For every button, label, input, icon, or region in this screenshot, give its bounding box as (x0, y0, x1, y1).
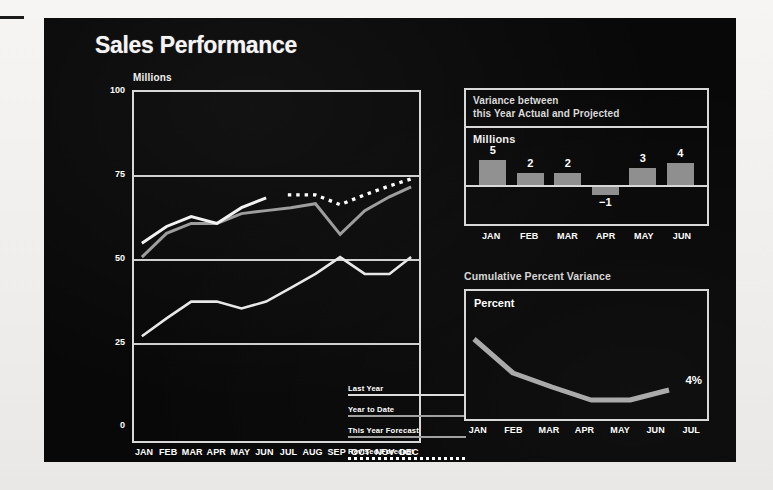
month-jan: JAN (132, 447, 156, 457)
legend-swatch-this-year-forecast (348, 436, 466, 438)
bar-value-feb: 2 (512, 157, 550, 169)
variance-month-jan: JAN (472, 231, 510, 241)
month-nov: NOV (373, 447, 397, 457)
month-dec: DEC (397, 447, 421, 457)
cum-month-jan: JAN (460, 425, 496, 435)
main-chart-month-axis: JAN FEB MAR APR MAY JUN JUL AUG SEP OCT … (132, 447, 421, 457)
bar-column-apr: −1 (587, 128, 625, 224)
legend-swatch-last-year (348, 394, 466, 396)
variance-chart-header: Variance between this Year Actual and Pr… (464, 88, 709, 128)
variance-month-apr: APR (587, 231, 625, 241)
main-chart-plot-area: Last Year Year to Date This Year Forecas… (132, 90, 421, 443)
series-last-year (142, 257, 411, 336)
y-tick-0: 0 (93, 420, 125, 430)
variance-title-line2: this Year Actual and Projected (473, 108, 707, 121)
bar-column-mar: 2 (549, 128, 587, 224)
y-tick-50: 50 (93, 253, 125, 263)
y-tick-25: 25 (93, 337, 125, 347)
variance-month-feb: FEB (510, 231, 548, 241)
cum-month-apr: APR (567, 425, 603, 435)
bar-value-jan: 5 (474, 144, 512, 156)
series-revised-forecast (288, 179, 411, 205)
page-title: Sales Performance (95, 32, 297, 59)
month-jun: JUN (252, 447, 276, 457)
page-edge-mark (0, 16, 24, 19)
variance-month-axis: JAN FEB MAR APR MAY JUN (472, 231, 701, 241)
variance-plot-area: Millions 5 2 2 −1 (464, 128, 709, 226)
main-chart-unit-label: Millions (133, 72, 172, 83)
month-sep: SEP (325, 447, 349, 457)
cumulative-chart-title: Cumulative Percent Variance (464, 270, 709, 282)
month-mar: MAR (180, 447, 204, 457)
variance-month-jun: JUN (663, 231, 701, 241)
month-may: MAY (228, 447, 252, 457)
variance-title-line1: Variance between (473, 95, 707, 108)
series-year-to-date (142, 198, 266, 243)
series-cumulative-percent (474, 339, 669, 400)
bar-jun (667, 163, 694, 185)
variance-month-may: MAY (625, 231, 663, 241)
month-feb: FEB (156, 447, 180, 457)
y-tick-100: 100 (93, 85, 125, 95)
legend-label-year-to-date: Year to Date (348, 405, 466, 414)
legend-swatch-year-to-date (348, 415, 466, 417)
legend-label-this-year-forecast: This Year Forecast (348, 426, 466, 435)
bar-jan (479, 160, 506, 185)
cum-month-jul: JUL (673, 425, 709, 435)
cumulative-percent-chart: Cumulative Percent Variance Percent 4% J… (464, 270, 709, 442)
bar-value-apr: −1 (587, 196, 625, 208)
cumulative-series-layer (466, 291, 707, 419)
legend-swatch-revised-forecast (348, 457, 466, 460)
cumulative-plot-area: Percent 4% (464, 289, 709, 421)
month-oct: OCT (349, 447, 373, 457)
y-tick-75: 75 (93, 169, 125, 179)
cum-month-may: MAY (602, 425, 638, 435)
legend-label-last-year: Last Year (348, 384, 466, 393)
cumulative-month-axis: JAN FEB MAR APR MAY JUN JUL (460, 425, 709, 435)
bar-column-jun: 4 (662, 128, 700, 224)
bar-mar (554, 173, 581, 185)
month-apr: APR (204, 447, 228, 457)
month-aug: AUG (301, 447, 325, 457)
presentation-slide: Sales Performance Millions 100 75 50 25 … (44, 18, 736, 462)
variance-bars: 5 2 2 −1 3 (474, 128, 699, 224)
legend-item-last-year: Last Year (348, 384, 466, 396)
bar-feb (517, 173, 544, 185)
legend-item-year-to-date: Year to Date (348, 405, 466, 417)
main-sales-chart: Millions 100 75 50 25 0 Last Ye (95, 70, 425, 440)
cum-month-mar: MAR (531, 425, 567, 435)
bar-column-jan: 5 (474, 128, 512, 224)
bar-value-mar: 2 (549, 157, 587, 169)
bar-may (629, 168, 656, 185)
cum-month-jun: JUN (638, 425, 674, 435)
legend-item-this-year-forecast: This Year Forecast (348, 426, 466, 438)
bar-value-may: 3 (624, 152, 662, 164)
series-this-year-forecast (142, 187, 411, 257)
variance-bar-chart: Variance between this Year Actual and Pr… (464, 88, 709, 253)
cum-month-feb: FEB (496, 425, 532, 435)
bar-apr (592, 187, 619, 195)
variance-month-mar: MAR (548, 231, 586, 241)
bar-column-feb: 2 (512, 128, 550, 224)
month-jul: JUL (276, 447, 300, 457)
bar-column-may: 3 (624, 128, 662, 224)
bar-value-jun: 4 (662, 147, 700, 159)
cumulative-end-label: 4% (685, 374, 702, 386)
